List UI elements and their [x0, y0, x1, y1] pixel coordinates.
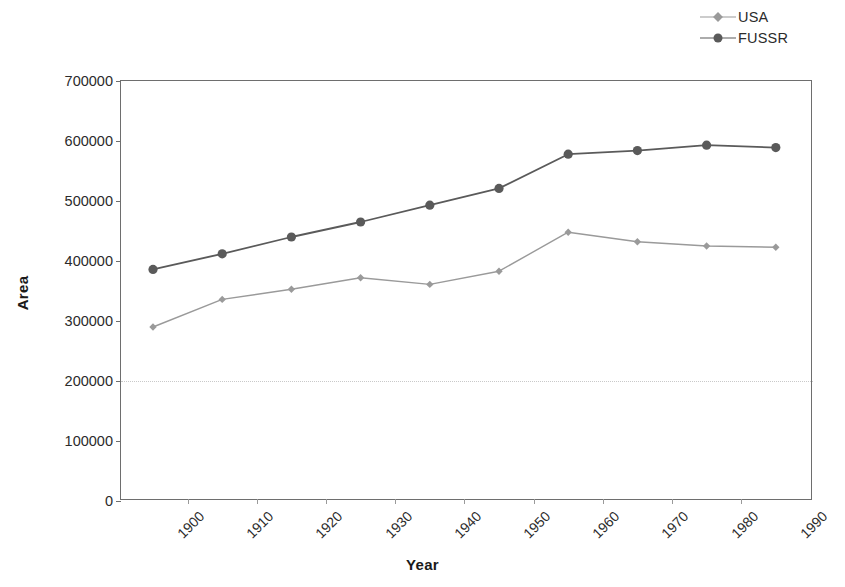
- x-tick-label-1940: 1940: [451, 508, 484, 541]
- y-tick-label-300000: 300000: [65, 313, 113, 329]
- x-tick-label-1980: 1980: [728, 508, 761, 541]
- data-point-fussr-1950[interactable]: [494, 184, 503, 193]
- y-tick-label-100000: 100000: [65, 433, 113, 449]
- legend-label-usa: USA: [736, 9, 768, 25]
- data-point-usa-1960[interactable]: [565, 229, 572, 236]
- x-axis-title: Year: [0, 556, 845, 573]
- x-tick-label-1950: 1950: [520, 508, 553, 541]
- legend-swatch-fussr: [700, 30, 736, 46]
- x-tick-label-1920: 1920: [313, 508, 346, 541]
- data-point-fussr-1960[interactable]: [564, 150, 573, 159]
- x-tick-label-1960: 1960: [589, 508, 622, 541]
- data-point-fussr-1910[interactable]: [218, 249, 227, 258]
- y-tick-label-600000: 600000: [65, 133, 113, 149]
- plot-area: 0100000200000300000400000500000600000700…: [120, 80, 812, 500]
- y-tick-label-700000: 700000: [65, 73, 113, 89]
- y-tick-label-400000: 400000: [65, 253, 113, 269]
- data-point-usa-1980[interactable]: [703, 242, 710, 249]
- x-tick-label-1930: 1930: [382, 508, 415, 541]
- series-line-fussr: [153, 145, 776, 269]
- data-point-usa-1950[interactable]: [495, 268, 502, 275]
- data-point-fussr-1930[interactable]: [356, 217, 365, 226]
- data-point-fussr-1920[interactable]: [287, 232, 296, 241]
- x-tick-label-1970: 1970: [659, 508, 692, 541]
- data-point-fussr-1970[interactable]: [633, 146, 642, 155]
- series-line-usa: [153, 232, 776, 327]
- data-point-usa-1920[interactable]: [288, 286, 295, 293]
- data-point-usa-1970[interactable]: [634, 238, 641, 245]
- data-point-fussr-1980[interactable]: [702, 141, 711, 150]
- y-tick-label-500000: 500000: [65, 193, 113, 209]
- y-axis-title: Area: [14, 276, 31, 311]
- data-point-fussr-1940[interactable]: [425, 201, 434, 210]
- data-point-usa-1940[interactable]: [426, 281, 433, 288]
- data-series-layer: [121, 81, 813, 501]
- y-tick-mark-0: [116, 501, 121, 502]
- data-point-usa-1990[interactable]: [772, 244, 779, 251]
- data-point-fussr-1990[interactable]: [771, 143, 780, 152]
- legend-label-fussr: FUSSR: [736, 30, 788, 46]
- data-point-usa-1930[interactable]: [357, 274, 364, 281]
- legend-swatch-usa: [700, 9, 736, 25]
- data-point-usa-1910[interactable]: [219, 296, 226, 303]
- y-tick-label-0: 0: [105, 493, 113, 509]
- series-usa: [149, 229, 779, 331]
- x-tick-label-1900: 1900: [174, 508, 207, 541]
- legend-item-usa[interactable]: USA: [700, 6, 840, 27]
- x-tick-label-1990: 1990: [797, 508, 830, 541]
- y-tick-label-200000: 200000: [65, 373, 113, 389]
- legend-item-fussr[interactable]: FUSSR: [700, 27, 840, 48]
- data-point-usa-1900[interactable]: [149, 323, 156, 330]
- chart-canvas: USA FUSSR 010000020000030000040000050000…: [0, 0, 845, 587]
- data-point-fussr-1900[interactable]: [148, 265, 157, 274]
- series-fussr: [148, 141, 780, 274]
- chart-legend: USA FUSSR: [700, 6, 840, 48]
- x-tick-label-1910: 1910: [243, 508, 276, 541]
